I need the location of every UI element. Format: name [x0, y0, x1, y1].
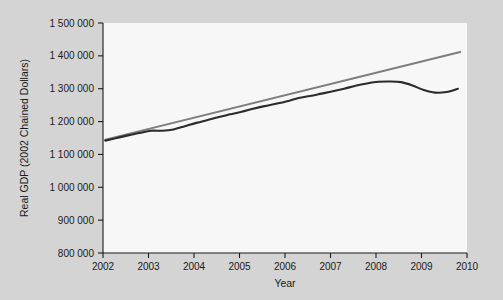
x-tick-label: 2002 [92, 261, 115, 272]
x-tick-label: 2006 [274, 261, 297, 272]
y-tick-label: 1 400 000 [50, 50, 95, 61]
y-tick-label: 1 100 000 [50, 149, 95, 160]
x-tick-label: 2009 [410, 261, 433, 272]
chart-figure: 800 000900 0001 000 0001 100 0001 200 00… [0, 0, 503, 300]
x-tick-label: 2007 [319, 261, 342, 272]
gdp-line-chart: 800 000900 0001 000 0001 100 0001 200 00… [0, 0, 503, 300]
x-tick-label: 2008 [365, 261, 388, 272]
x-tick-label: 2003 [137, 261, 160, 272]
y-tick-label: 1 300 000 [50, 83, 95, 94]
x-tick-label: 2005 [228, 261, 251, 272]
x-axis-title: Year [274, 277, 296, 289]
x-tick-label: 2010 [456, 261, 479, 272]
y-axis-title: Real GDP (2002 Chained Dollars) [18, 59, 30, 217]
plot-area-background [103, 23, 467, 253]
y-tick-label: 1 500 000 [50, 18, 95, 29]
y-tick-label: 1 000 000 [50, 182, 95, 193]
x-tick-label: 2004 [183, 261, 206, 272]
y-tick-label: 900 000 [58, 215, 95, 226]
y-tick-label: 800 000 [58, 248, 95, 259]
y-tick-label: 1 200 000 [50, 116, 95, 127]
